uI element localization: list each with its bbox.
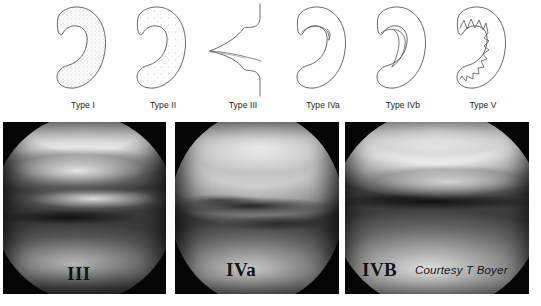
diagram-type-4a: Type IVa	[278, 0, 368, 120]
type-4b-shape-icon	[358, 2, 448, 98]
diagram-label-type-4b: Type IVb	[358, 100, 448, 110]
photo-strip: III IVa IVB Courtesy T Boyer	[0, 122, 541, 297]
type-1-shape-icon	[38, 2, 128, 98]
type-4a-shape-icon	[278, 2, 368, 98]
arthroscopy-image-iva	[175, 122, 339, 294]
photo-panel-iii: III	[3, 122, 166, 294]
meniscal-tear-classification-figure: Type I Type II	[0, 0, 541, 306]
photo-panel-ivb: IVB Courtesy T Boyer	[345, 122, 529, 294]
diagram-label-type-5: Type V	[438, 100, 528, 110]
photo-caption-ivb: IVB	[362, 260, 397, 279]
type-5-shape-icon	[438, 2, 528, 98]
diagram-label-type-4a: Type IVa	[278, 100, 368, 110]
diagram-type-4b: Type IVb	[358, 0, 448, 120]
diagram-label-type-1: Type I	[38, 100, 128, 110]
diagram-label-type-3: Type III	[198, 100, 288, 110]
diagram-type-5: Type V	[438, 0, 528, 120]
photo-caption-iva: IVa	[226, 260, 256, 279]
type-3-shape-icon	[198, 2, 288, 98]
vignette-iva	[175, 122, 339, 294]
photo-panel-iva: IVa	[175, 122, 339, 294]
diagram-label-type-2: Type II	[118, 100, 208, 110]
diagram-type-1: Type I	[38, 0, 128, 120]
diagram-type-3: Type III	[198, 0, 288, 120]
diagram-type-2: Type II	[118, 0, 208, 120]
type-2-shape-icon	[118, 2, 208, 98]
photo-credit: Courtesy T Boyer	[415, 264, 508, 276]
diagram-strip: Type I Type II	[0, 0, 541, 120]
photo-caption-iii: III	[67, 264, 91, 283]
